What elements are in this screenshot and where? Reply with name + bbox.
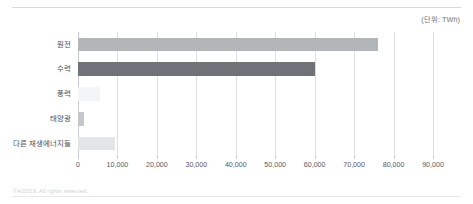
x-tick-mark bbox=[315, 156, 316, 159]
x-tick-label: 30,000 bbox=[185, 161, 207, 169]
bar-row: 수력 bbox=[78, 57, 433, 82]
category-label: 원전 bbox=[57, 41, 71, 48]
bar-series: 원전수력풍력태양광다른 재생에너지들 bbox=[78, 32, 433, 156]
unit-caption: (단위: TWh) bbox=[421, 14, 460, 24]
bar-row: 태양광 bbox=[78, 106, 433, 131]
x-tick-label: 60,000 bbox=[304, 161, 326, 169]
x-tick-label: 10,000 bbox=[107, 161, 129, 169]
copyright-text: ©A/2019. All rights reserved. bbox=[13, 188, 88, 194]
x-tick-mark bbox=[157, 156, 158, 159]
bar bbox=[78, 62, 315, 76]
x-tick-mark bbox=[117, 156, 118, 159]
x-tick-mark bbox=[394, 156, 395, 159]
x-tick-mark bbox=[275, 156, 276, 159]
x-tick-label: 90,000 bbox=[422, 161, 444, 169]
footer-divider bbox=[12, 196, 461, 197]
gridline bbox=[433, 32, 434, 156]
top-divider bbox=[12, 7, 461, 8]
x-tick-label: 80,000 bbox=[383, 161, 405, 169]
x-tick-mark bbox=[196, 156, 197, 159]
bar bbox=[78, 137, 115, 151]
bar bbox=[78, 112, 84, 126]
x-tick-mark bbox=[78, 156, 79, 159]
x-tick-mark bbox=[354, 156, 355, 159]
category-label: 수력 bbox=[57, 65, 71, 72]
x-tick-mark bbox=[433, 156, 434, 159]
x-tick-mark bbox=[236, 156, 237, 159]
bar-row: 다른 재생에너지들 bbox=[78, 131, 433, 156]
x-tick-label: 70,000 bbox=[343, 161, 365, 169]
category-label: 풍력 bbox=[57, 90, 71, 97]
category-label: 다른 재생에너지들 bbox=[13, 140, 71, 147]
x-tick-label: 40,000 bbox=[225, 161, 247, 169]
category-label: 태양광 bbox=[50, 115, 71, 122]
bar bbox=[78, 38, 378, 52]
x-tick-label: 50,000 bbox=[264, 161, 286, 169]
x-tick-label: 20,000 bbox=[146, 161, 168, 169]
x-axis-line bbox=[78, 156, 433, 157]
chart-figure: (단위: TWh) 원전수력풍력태양광다른 재생에너지들 010,00020,0… bbox=[0, 0, 473, 204]
x-tick-label: 0 bbox=[76, 161, 80, 169]
bar-row: 풍력 bbox=[78, 82, 433, 107]
bar-row: 원전 bbox=[78, 32, 433, 57]
bar bbox=[78, 87, 100, 101]
plot-area: 원전수력풍력태양광다른 재생에너지들 bbox=[78, 32, 433, 156]
